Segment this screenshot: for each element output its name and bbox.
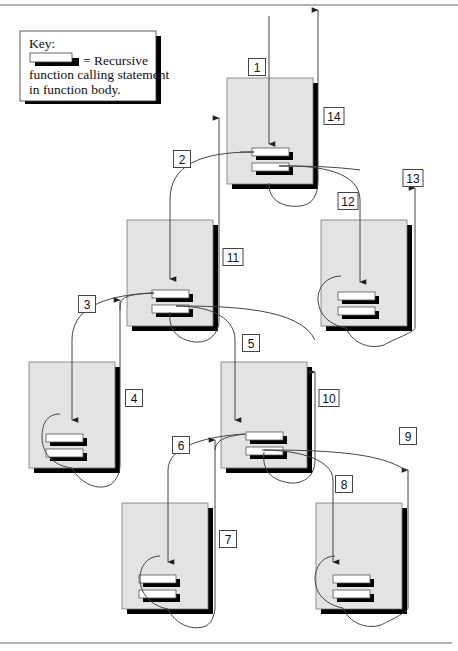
step-number: 12 (341, 195, 355, 209)
step-label-1: 1 (249, 59, 266, 76)
step-label-11: 11 (223, 249, 243, 266)
step-label-12: 12 (338, 193, 358, 210)
function-frame-call-1 (227, 78, 318, 189)
step-number: 5 (248, 337, 255, 351)
function-frame-call-2 (127, 220, 218, 331)
step-label-10: 10 (319, 390, 339, 407)
recursive-call-stmt-1 (139, 575, 176, 583)
key-stmt-sample (30, 53, 72, 62)
step-number: 7 (225, 533, 232, 547)
recursive-call-stmt-1 (152, 290, 189, 298)
step-label-2: 2 (174, 151, 191, 168)
function-frame-call-4 (29, 362, 120, 473)
recursion-diagram: Key: = Recursive function calling statem… (0, 0, 458, 651)
step-label-13: 13 (403, 170, 423, 187)
recursive-call-stmt-1 (46, 434, 83, 442)
recursive-call-stmt-1 (246, 432, 283, 440)
step-label-9: 9 (400, 428, 417, 445)
recursive-call-stmt-2 (252, 163, 289, 171)
step-label-8: 8 (336, 476, 353, 493)
function-frame-call-3 (321, 220, 412, 331)
step-number: 2 (179, 153, 186, 167)
recursive-call-stmt-2 (333, 590, 370, 598)
recursive-call-stmt-1 (252, 148, 289, 156)
step-number: 11 (227, 251, 240, 265)
step-label-5: 5 (243, 335, 260, 352)
recursive-call-stmt-1 (338, 292, 375, 300)
step-number: 4 (131, 392, 138, 406)
key-line-1: = Recursive (83, 53, 148, 68)
step-label-14: 14 (324, 108, 344, 125)
step-number: 6 (178, 439, 185, 453)
key-line-2: function calling statement (29, 67, 169, 82)
function-frame-call-7 (316, 503, 407, 614)
step-label-3: 3 (79, 296, 96, 313)
step-number: 3 (84, 298, 91, 312)
key-title: Key: (29, 36, 55, 51)
step-number: 13 (406, 172, 420, 186)
step-number: 14 (327, 110, 341, 124)
step-number: 9 (405, 430, 412, 444)
step-number: 10 (322, 392, 336, 406)
step-number: 8 (341, 478, 348, 492)
step-label-4: 4 (126, 390, 143, 407)
step-number: 1 (254, 61, 261, 75)
key-legend: Key: = Recursive function calling statem… (20, 31, 169, 104)
key-line-3: in function body. (29, 82, 121, 97)
step-label-7: 7 (220, 531, 237, 548)
recursive-call-stmt-2 (46, 449, 83, 457)
recursive-call-stmt-1 (333, 575, 370, 583)
step-label-6: 6 (173, 437, 190, 454)
recursive-call-stmt-2 (338, 307, 375, 315)
